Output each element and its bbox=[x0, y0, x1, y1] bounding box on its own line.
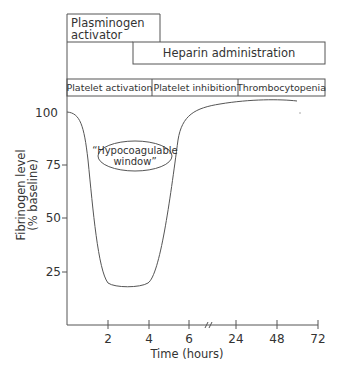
svg-text:72: 72 bbox=[310, 332, 325, 346]
fibrinogen-curve bbox=[67, 100, 297, 287]
svg-text:4: 4 bbox=[145, 332, 153, 346]
svg-text:window”: window” bbox=[113, 156, 156, 167]
platelet-activation-label: Platelet activation bbox=[66, 82, 152, 93]
svg-text:“Hypocoagulable: “Hypocoagulable bbox=[92, 145, 177, 156]
svg-text:6: 6 bbox=[185, 332, 193, 346]
x-axis: 2 4 6 24 48 72 Time (hours) bbox=[67, 320, 326, 361]
hypocoagulable-window-annotation: “Hypocoagulable window” bbox=[92, 141, 177, 171]
plasminogen-activator-bar: Plasminogen activator bbox=[67, 14, 160, 42]
heparin-label: Heparin administration bbox=[163, 46, 295, 60]
y-tick-50: 50 bbox=[46, 211, 61, 225]
x-axis-label: Time (hours) bbox=[149, 347, 223, 361]
svg-text:48: 48 bbox=[269, 332, 284, 346]
thrombocytopenia-label: Thrombocytopenia bbox=[236, 82, 326, 93]
svg-text:24: 24 bbox=[228, 332, 243, 346]
y-tick-100: 100 bbox=[35, 106, 58, 120]
y-axis-label: Fibrinogen level (% baseline) bbox=[14, 149, 40, 240]
chart: Plasminogen activator Heparin administra… bbox=[0, 0, 342, 375]
y-tick-75: 75 bbox=[46, 158, 61, 172]
plasminogen-label-line2: activator bbox=[71, 28, 122, 42]
svg-text:(% baseline): (% baseline) bbox=[26, 159, 40, 231]
platelet-phase-row: Platelet activation Platelet inhibition … bbox=[66, 79, 326, 96]
platelet-inhibition-label: Platelet inhibition bbox=[153, 82, 236, 93]
y-tick-25: 25 bbox=[46, 265, 61, 279]
heparin-administration-bar: Heparin administration bbox=[133, 42, 325, 64]
svg-text:2: 2 bbox=[104, 332, 112, 346]
